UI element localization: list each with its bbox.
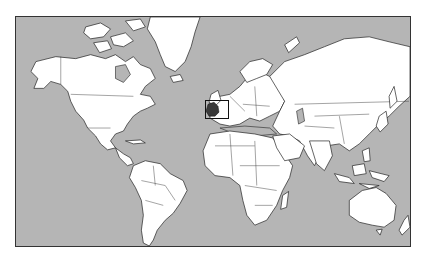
world-map: World map with France highlighted bbox=[15, 16, 411, 247]
borneo bbox=[352, 164, 366, 176]
highlighted-country-label: France bbox=[16, 246, 17, 247]
highlight-box bbox=[205, 100, 229, 119]
world-map-svg bbox=[16, 17, 410, 246]
